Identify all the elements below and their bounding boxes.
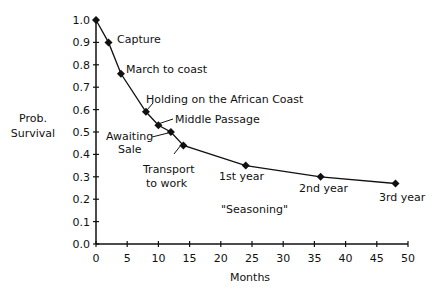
y-axis-label-line2: Survival: [11, 127, 55, 140]
y-tick-label: 0.9: [73, 36, 91, 49]
y-tick-label: 0.0: [73, 238, 91, 251]
x-tick-label: 5: [124, 252, 131, 265]
y-tick-label: 0.3: [73, 171, 91, 184]
y-tick-label: 0.4: [73, 148, 91, 161]
annotation-holding: Holding on the African Coast: [146, 93, 304, 106]
x-tick-label: 10: [151, 252, 165, 265]
annotation-seasoning: "Seasoning": [221, 203, 288, 216]
y-tick-label: 0.8: [73, 59, 91, 72]
data-point-marker: [317, 173, 325, 181]
transport-leader-line: [174, 145, 181, 154]
annotation-capture: Capture: [117, 33, 161, 46]
x-tick-label: 15: [183, 252, 197, 265]
x-tick-label: 50: [401, 252, 415, 265]
x-tick-label: 20: [214, 252, 228, 265]
annotation-middle-passage: Middle Passage: [175, 113, 260, 126]
y-axis-label-line1: Prob.: [19, 112, 47, 125]
data-point-marker: [242, 162, 250, 170]
x-tick-label: 25: [245, 252, 259, 265]
awaiting-leader-line: [152, 133, 168, 137]
y-tick-label: 0.5: [73, 126, 91, 139]
data-point-marker: [92, 16, 100, 24]
y-axis-ticks: 0.00.10.20.30.40.50.60.70.80.91.0: [73, 14, 100, 251]
annotation-awaiting-line2: Sale: [118, 143, 142, 156]
annotation-awaiting-line1: Awaiting: [106, 130, 153, 143]
data-point-marker: [117, 70, 125, 78]
data-point-marker: [104, 38, 112, 46]
annotation-3rd-year: 3rd year: [379, 191, 426, 204]
y-tick-label: 0.2: [73, 193, 91, 206]
annotation-transport-line2: to work: [146, 177, 188, 190]
middle-leader-line: [158, 119, 173, 124]
x-tick-label: 40: [339, 252, 353, 265]
survival-chart: 0.00.10.20.30.40.50.60.70.80.91.0 051015…: [0, 0, 439, 294]
x-tick-label: 30: [276, 252, 290, 265]
y-tick-label: 0.1: [73, 216, 91, 229]
x-tick-label: 35: [307, 252, 321, 265]
data-point-marker: [392, 180, 400, 188]
y-tick-label: 1.0: [73, 14, 91, 27]
annotation-transport-line1: Transport: [142, 163, 195, 176]
y-tick-label: 0.6: [73, 104, 91, 117]
annotation-2nd-year: 2nd year: [299, 182, 348, 195]
x-tick-label: 45: [370, 252, 384, 265]
annotation-march-to-coast: March to coast: [126, 63, 208, 76]
annotation-1st-year: 1st year: [219, 170, 265, 183]
x-tick-label: 0: [93, 252, 100, 265]
y-tick-label: 0.7: [73, 81, 91, 94]
x-axis-label: Months: [230, 271, 270, 284]
